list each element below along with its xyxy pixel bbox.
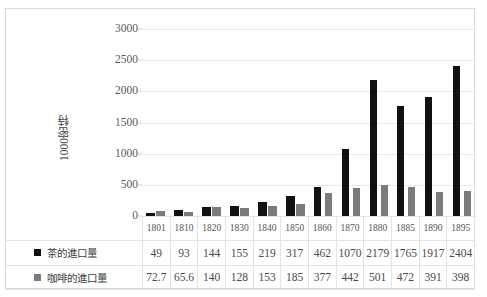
table-cell-tea: 462 — [308, 240, 336, 265]
bar-tea[interactable] — [230, 206, 239, 216]
bar-group — [142, 29, 170, 216]
table-cell-tea: 2404 — [446, 240, 475, 265]
table-cell-tea: 2179 — [363, 240, 391, 265]
bar-tea[interactable] — [370, 80, 377, 216]
x-axis-category-label: 1880 — [363, 216, 391, 240]
table-row-coffee: 咖啡的進口量 72.765.61401281531853774425014723… — [6, 265, 475, 289]
table-cell-tea: 1917 — [419, 240, 447, 265]
bar-coffee[interactable] — [436, 192, 443, 216]
bar-coffee[interactable] — [268, 206, 277, 216]
legend-item-tea[interactable]: 茶的進口量 — [34, 240, 142, 265]
y-tick-label: 1000 — [94, 148, 138, 160]
y-tick-label: 2000 — [94, 86, 138, 98]
table-row-tea: 茶的進口量 4993144155219317462107021791765191… — [6, 240, 475, 265]
table-cell-coffee: 501 — [363, 265, 391, 289]
legend-label-coffee: 咖啡的進口量 — [47, 270, 107, 285]
table-cell-coffee: 442 — [336, 265, 364, 289]
bar-group — [281, 29, 309, 216]
bar-group — [393, 29, 421, 216]
x-axis-category-label: 1885 — [391, 216, 419, 240]
x-axis-category-label: 1850 — [280, 216, 308, 240]
y-tick-label: 500 — [94, 179, 138, 191]
table-cell-coffee: 398 — [446, 265, 475, 289]
bar-group — [337, 29, 365, 216]
table-cell-tea: 155 — [225, 240, 253, 265]
x-axis-category-label: 1801 — [142, 216, 170, 240]
bar-coffee[interactable] — [381, 185, 388, 216]
bar-coffee[interactable] — [464, 191, 471, 216]
table-cell-coffee: 377 — [308, 265, 336, 289]
table-cell-tea: 144 — [197, 240, 225, 265]
x-axis-category-label: 1895 — [446, 216, 475, 240]
table-cell-tea: 1765 — [391, 240, 419, 265]
table-cell-tea: 1070 — [336, 240, 364, 265]
table-cell-tea: 49 — [142, 240, 170, 265]
bar-tea[interactable] — [202, 207, 211, 216]
x-axis-category-label: 1870 — [336, 216, 364, 240]
table-row-years: 1801181018201830184018501860187018801885… — [6, 216, 475, 240]
table-cell-coffee: 391 — [419, 265, 447, 289]
legend-item-coffee[interactable]: 咖啡的進口量 — [34, 265, 142, 289]
y-tick-label: 2500 — [94, 54, 138, 66]
bar-coffee[interactable] — [408, 187, 415, 216]
bar-group — [309, 29, 337, 216]
y-tick-label: 1500 — [94, 117, 138, 129]
bar-coffee[interactable] — [212, 207, 221, 216]
table-cell-tea: 93 — [170, 240, 198, 265]
bar-coffee[interactable] — [353, 188, 360, 216]
table-divider — [6, 289, 475, 290]
x-axis-category-label: 1890 — [419, 216, 447, 240]
table-cell-coffee: 72.7 — [142, 265, 170, 289]
y-axis-ticks: 300025002000150010005000 — [90, 29, 138, 216]
x-axis-category-label: 1820 — [197, 216, 225, 240]
y-axis-title: 1000密特 — [56, 83, 76, 193]
bar-group — [198, 29, 226, 216]
chart-frame: 1000密特 300025002000150010005000 18011810… — [5, 8, 475, 289]
table-cell-coffee: 140 — [197, 265, 225, 289]
table-cell-coffee: 185 — [280, 265, 308, 289]
bar-coffee[interactable] — [240, 208, 249, 216]
table-cell-coffee: 128 — [225, 265, 253, 289]
legend-swatch-tea-icon — [34, 249, 41, 256]
x-axis-category-label: 1810 — [170, 216, 198, 240]
bar-tea[interactable] — [314, 187, 321, 216]
data-table: 1801181018201830184018501860187018801885… — [6, 216, 475, 289]
table-cell-coffee: 65.6 — [170, 265, 198, 289]
bar-group — [365, 29, 393, 216]
x-axis-category-label: 1840 — [253, 216, 281, 240]
legend-label-tea: 茶的進口量 — [47, 245, 97, 260]
bar-tea[interactable] — [425, 97, 432, 216]
bar-tea[interactable] — [342, 149, 349, 216]
y-tick-label: 3000 — [94, 23, 138, 35]
chart-screenshot: 1000密特 300025002000150010005000 18011810… — [0, 0, 487, 297]
bar-group — [253, 29, 281, 216]
table-cell-tea: 219 — [253, 240, 281, 265]
bar-coffee[interactable] — [325, 193, 332, 216]
x-axis-category-label: 1830 — [225, 216, 253, 240]
bar-coffee[interactable] — [296, 204, 305, 216]
bar-tea[interactable] — [286, 196, 295, 216]
table-cell-coffee: 153 — [253, 265, 281, 289]
table-cell-tea: 317 — [280, 240, 308, 265]
bar-tea[interactable] — [258, 202, 267, 216]
x-axis-category-label: 1860 — [308, 216, 336, 240]
bar-group — [448, 29, 476, 216]
table-cell-coffee: 472 — [391, 265, 419, 289]
bar-group — [420, 29, 448, 216]
bar-tea[interactable] — [397, 106, 404, 216]
bar-tea[interactable] — [453, 66, 460, 216]
bar-group — [226, 29, 254, 216]
plot-area — [142, 29, 476, 216]
legend-swatch-coffee-icon — [34, 274, 41, 281]
bar-group — [170, 29, 198, 216]
